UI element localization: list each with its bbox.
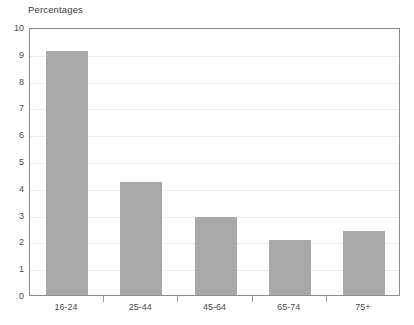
bar (269, 240, 311, 295)
y-axis-tick-label: 4 (19, 184, 24, 193)
x-axis-tick-label: 45-64 (203, 302, 226, 312)
y-axis-tick-label: 1 (19, 265, 24, 274)
y-axis-tick-label: 5 (19, 158, 24, 167)
x-axis-tick-label: 65-74 (277, 302, 300, 312)
bar (120, 182, 162, 295)
plot-area (29, 28, 400, 296)
y-axis: 012345678910 (0, 28, 24, 296)
y-axis-tick-label: 0 (19, 292, 24, 301)
x-axis-tick-label: 16-24 (55, 302, 78, 312)
y-axis-tick-label: 8 (19, 77, 24, 86)
bars-layer (30, 29, 399, 295)
y-axis-tick-label: 2 (19, 238, 24, 247)
chart-title: Percentages (28, 4, 83, 15)
y-axis-tick-label: 3 (19, 211, 24, 220)
x-axis-tick-label: 25-44 (129, 302, 152, 312)
x-axis: 16-2425-4445-6465-7475+ (29, 302, 400, 320)
y-axis-tick-label: 6 (19, 131, 24, 140)
bar-chart: Percentages 012345678910 16-2425-4445-64… (0, 0, 414, 325)
bar (195, 217, 237, 295)
x-axis-tick-label: 75+ (355, 302, 370, 312)
y-axis-tick-label: 10 (14, 24, 24, 33)
bar (46, 51, 88, 295)
bar (343, 231, 385, 295)
y-axis-tick-label: 9 (19, 50, 24, 59)
y-axis-tick-label: 7 (19, 104, 24, 113)
